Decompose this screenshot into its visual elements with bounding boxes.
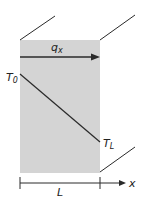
slab-bottom-right-edge: [100, 147, 135, 172]
length-label: L: [57, 186, 63, 199]
slab-top-left-edge: [20, 16, 55, 40]
x-axis: [20, 177, 126, 189]
temperature-right-label: TL: [103, 137, 114, 151]
axis-x-label: x: [128, 177, 136, 190]
axis-arrowhead-icon: [119, 180, 126, 186]
heat-conduction-diagram: qx T0 TL x L: [0, 0, 144, 205]
temperature-left-label: T0: [6, 71, 18, 85]
slab-top-right-edge: [100, 15, 135, 40]
slab-region: [20, 40, 100, 173]
